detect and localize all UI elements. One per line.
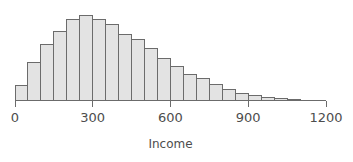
histogram-bar xyxy=(93,19,106,100)
histogram-bar xyxy=(209,84,222,100)
histogram-bar xyxy=(145,49,158,101)
histogram-bar xyxy=(28,62,41,100)
histogram-bar xyxy=(222,90,235,101)
histogram-bar xyxy=(15,85,28,100)
histogram-figure: 03006009001200 Income xyxy=(0,0,353,162)
x-axis-ticks xyxy=(15,101,326,107)
histogram-bar xyxy=(41,44,54,100)
histogram-bar xyxy=(67,19,80,100)
histogram-bar xyxy=(119,34,132,100)
histogram-bar xyxy=(132,40,145,101)
histogram-bar xyxy=(235,93,248,100)
histogram-bar xyxy=(80,15,93,100)
histogram-bar xyxy=(196,79,209,101)
histogram-bar xyxy=(158,59,171,101)
histogram-bar xyxy=(248,96,261,101)
x-axis-tick-label: 900 xyxy=(236,110,261,125)
histogram-bar xyxy=(106,24,119,100)
histogram-bar xyxy=(54,32,67,101)
x-axis-tick-label: 600 xyxy=(158,110,183,125)
x-axis-tick-label: 0 xyxy=(11,110,19,125)
x-axis-title: Income xyxy=(148,137,192,151)
x-axis-tick-label: 300 xyxy=(80,110,105,125)
histogram-bar xyxy=(171,66,184,100)
histogram-plot: 03006009001200 Income xyxy=(0,0,353,162)
bars-group xyxy=(15,15,313,100)
histogram-bar xyxy=(183,74,196,100)
x-axis-tick-labels: 03006009001200 xyxy=(11,110,343,125)
x-axis-tick-label: 1200 xyxy=(309,110,342,125)
